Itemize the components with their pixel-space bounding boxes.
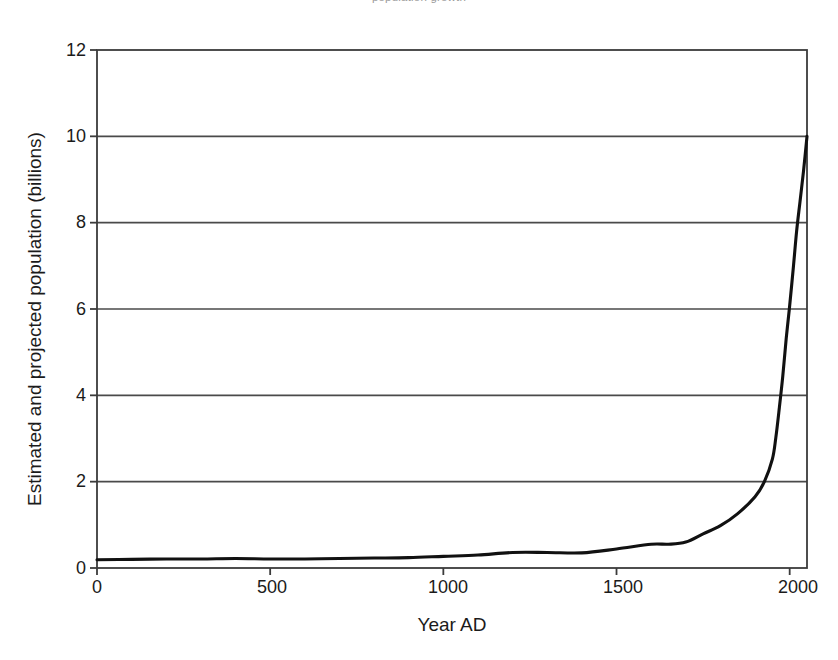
gridlines [97,136,807,481]
population-curve [97,136,807,559]
y-axis-ticks [90,50,97,568]
population-growth-chart-figure: population growth Estimated and projecte… [0,0,838,660]
plot-canvas [0,0,838,660]
x-axis-ticks [97,568,790,575]
